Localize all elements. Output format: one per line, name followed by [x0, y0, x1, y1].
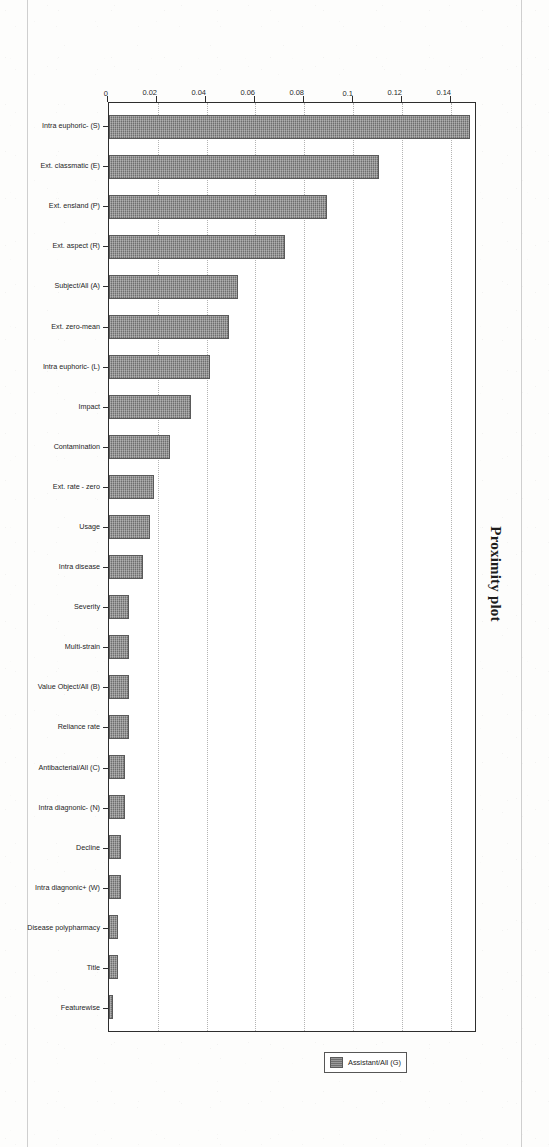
category-axis-tick [103, 1008, 108, 1009]
bar-slot [109, 747, 475, 787]
bar [109, 314, 229, 339]
bar-slot [109, 227, 475, 267]
value-axis-tick-label: 0 [103, 88, 107, 97]
category-axis-tick [103, 727, 108, 728]
category-axis-tick [103, 607, 108, 608]
category-slot: Usage [42, 506, 108, 546]
category-slot: Intra disease [42, 547, 108, 587]
bar [109, 234, 285, 259]
category-slot: Multi-strain [42, 627, 108, 667]
bar [109, 514, 150, 539]
category-axis-tick [103, 166, 108, 167]
category-slot: Intra diagnonic+ (W) [42, 867, 108, 907]
bar-slot [109, 307, 475, 347]
bar [109, 274, 238, 299]
category-axis-label: Title [86, 964, 99, 971]
bar [109, 474, 154, 499]
bar-slot [109, 547, 475, 587]
value-axis-tick-label: 0.1 [342, 88, 352, 97]
bar [109, 634, 129, 659]
category-axis-label: Antibacterial/All (C) [38, 763, 100, 770]
category-slot: Disease polypharmacy [42, 907, 108, 947]
value-axis-tick [352, 96, 353, 102]
bar-slot [109, 707, 475, 747]
category-axis-label: Intra diagnonic+ (W) [35, 884, 100, 891]
bar-slot [109, 387, 475, 427]
value-axis-tick-label: 0.02 [142, 88, 157, 97]
bar [109, 874, 121, 899]
category-axis-label: Featurewise [60, 1004, 99, 1011]
bar-slot [109, 987, 475, 1027]
legend-label: Assistant/All (G) [348, 1058, 401, 1067]
category-axis-label: Value Object/All (B) [37, 683, 99, 690]
value-axis-tick-label: 0.06 [240, 88, 255, 97]
scan-edge-right [521, 0, 522, 1147]
bar [109, 754, 125, 779]
category-slot: Title [42, 947, 108, 987]
bar-slot [109, 147, 475, 187]
bar [109, 714, 129, 739]
plot-frame [108, 102, 476, 1032]
bars-layer [109, 103, 475, 1031]
bar [109, 434, 170, 459]
category-axis-tick [103, 647, 108, 648]
category-axis-tick [103, 366, 108, 367]
category-axis-tick [103, 286, 108, 287]
category-slot: Severity [42, 587, 108, 627]
category-axis-tick [103, 246, 108, 247]
value-axis-tick [303, 96, 304, 102]
plot-area [109, 103, 475, 1031]
bar-slot [109, 867, 475, 907]
bar-slot [109, 267, 475, 307]
category-axis-label: Severity [74, 603, 100, 610]
category-axis-label: Ext. classmatic (E) [40, 162, 100, 169]
proximity-plot-figure: Proximity plot 00.020.040.060.080.10.120… [40, 24, 510, 1124]
category-slot: Decline [42, 827, 108, 867]
category-axis-tick [103, 526, 108, 527]
category-slot: Intra euphoric- (S) [42, 106, 108, 146]
category-axis-tick [103, 807, 108, 808]
category-slot: Impact [42, 386, 108, 426]
category-axis-label: Multi-strain [64, 643, 99, 650]
category-axis-tick [103, 446, 108, 447]
category-axis-tick [103, 486, 108, 487]
category-axis-tick [103, 887, 108, 888]
value-axis-tick [156, 96, 157, 102]
value-axis-tick [107, 96, 108, 102]
value-axis-tick-label: 0.14 [436, 88, 451, 97]
bar [109, 954, 118, 979]
bar-slot [109, 947, 475, 987]
category-axis-label: Reliance rate [57, 723, 99, 730]
category-axis-label: Intra euphoric- (S) [42, 122, 100, 129]
bar [109, 554, 143, 579]
bar [109, 794, 125, 819]
bar-slot [109, 347, 475, 387]
category-axis-label: Disease polypharmacy [27, 924, 100, 931]
category-axis-tick [103, 126, 108, 127]
scan-edge-left [27, 0, 28, 1147]
bar-slot [109, 907, 475, 947]
category-axis-label: Ext. aspect (R) [52, 242, 100, 249]
category-slot: Ext. zero-mean [42, 306, 108, 346]
bar [109, 194, 327, 219]
category-axis-label: Intra euphoric- (L) [42, 363, 99, 370]
category-slot: Ext. classmatic (E) [42, 146, 108, 186]
category-axis-tick [103, 206, 108, 207]
bar-slot [109, 427, 475, 467]
category-axis-label: Decline [76, 844, 100, 851]
scanned-page-background: Proximity plot 00.020.040.060.080.10.120… [0, 0, 549, 1147]
value-axis-tick [254, 96, 255, 102]
category-axis-tick [103, 847, 108, 848]
bar-slot [109, 787, 475, 827]
bar [109, 394, 191, 419]
category-slot: Value Object/All (B) [42, 667, 108, 707]
category-axis-tick [103, 567, 108, 568]
category-axis-label: Usage [79, 523, 100, 530]
category-axis-tick [103, 927, 108, 928]
value-axis-tick [401, 96, 402, 102]
category-slot: Intra euphoric- (L) [42, 346, 108, 386]
category-axis-tick [103, 687, 108, 688]
bar-slot [109, 627, 475, 667]
bar-slot [109, 467, 475, 507]
category-axis-tick [103, 326, 108, 327]
